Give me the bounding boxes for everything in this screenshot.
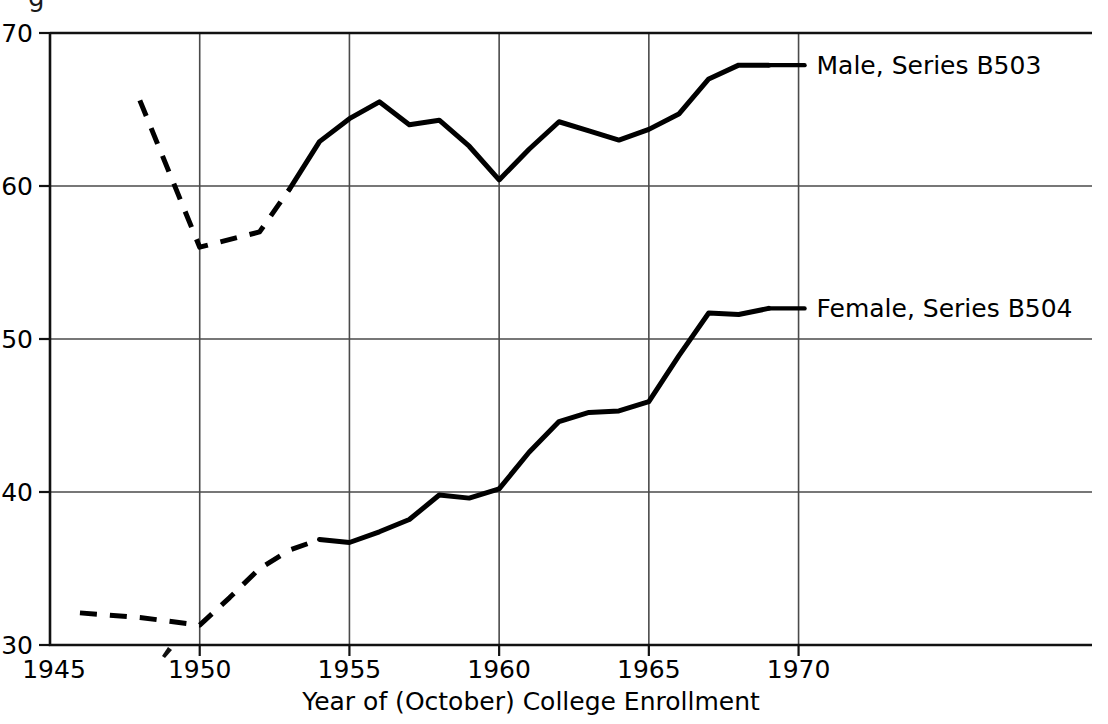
x-axis-title: Year of (October) College Enrollment xyxy=(301,687,760,716)
x-tick-label-1955: 1955 xyxy=(318,655,382,684)
line-chart: 3040506070194519501955196019651970Year o… xyxy=(0,0,1108,724)
x-tick-label-1950: 1950 xyxy=(168,655,232,684)
series-line-solid-0 xyxy=(290,65,769,189)
x-tick-label-1945: 1945 xyxy=(22,655,86,684)
series-label-0: Male, Series B503 xyxy=(817,51,1042,80)
series-line-dashed-0 xyxy=(140,100,290,247)
y-tick-label-50: 50 xyxy=(1,325,33,354)
x-tick-label-1970: 1970 xyxy=(767,655,831,684)
y-tick-label-70: 70 xyxy=(1,19,33,48)
y-tick-label-60: 60 xyxy=(1,172,33,201)
chart-figure: g 3040506070194519501955196019651970Year… xyxy=(0,0,1108,724)
x-tick-label-1965: 1965 xyxy=(617,655,681,684)
x-tick-label-1960: 1960 xyxy=(467,655,531,684)
y-tick-label-40: 40 xyxy=(1,478,33,507)
series-label-1: Female, Series B504 xyxy=(817,294,1073,323)
caption-descender-fragment: g xyxy=(28,0,45,12)
series-line-solid-1 xyxy=(319,308,768,542)
